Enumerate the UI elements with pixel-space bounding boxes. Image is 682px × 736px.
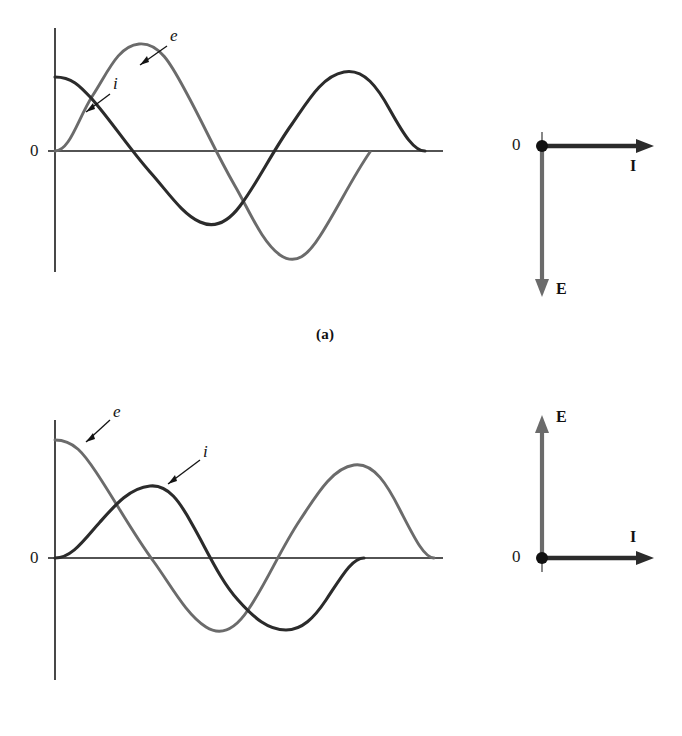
phasor-svg-a — [470, 0, 682, 330]
axis-zero-label-b: 0 — [30, 548, 39, 568]
phasor-label-i-b: I — [630, 528, 636, 546]
voltage-annotation-arrow-b — [86, 420, 110, 442]
phasor-label-e-a: E — [556, 280, 567, 298]
waveform-plot-a — [0, 0, 470, 330]
phasor-origin-dot-b — [536, 552, 548, 564]
current-annotation-arrow-b — [168, 460, 200, 484]
panel-b: 0 e i E 0 I — [0, 380, 682, 736]
waveform-plot-b — [0, 380, 470, 710]
waveform-svg-b — [0, 380, 470, 710]
phasor-svg-b — [470, 380, 682, 710]
phasor-origin-label-a: 0 — [512, 135, 521, 155]
phasor-label-e-b: E — [556, 408, 567, 426]
phasor-vector-e-a — [535, 146, 549, 297]
current-curve-a — [55, 71, 425, 224]
figure-root: 0 e i 0 I E — [0, 0, 682, 736]
panel-caption-a: (a) — [316, 326, 334, 343]
axis-zero-label-a: 0 — [30, 141, 39, 161]
current-curve-label-b: i — [203, 442, 208, 462]
voltage-curve-b — [55, 440, 434, 631]
phasor-diagram-b: E 0 I — [470, 380, 682, 710]
phasor-origin-dot-a — [536, 140, 548, 152]
panel-a: 0 e i 0 I E — [0, 0, 682, 380]
phasor-diagram-a: 0 I E — [470, 0, 682, 330]
waveform-svg-a — [0, 0, 470, 330]
voltage-curve-label-a: e — [170, 26, 178, 46]
current-curve-label-a: i — [113, 74, 118, 94]
phasor-label-i-a: I — [630, 157, 636, 175]
phasor-vector-i-b — [542, 551, 654, 565]
phasor-vector-e-b — [535, 415, 549, 558]
phasor-vector-i-a — [542, 139, 654, 153]
phasor-origin-label-b: 0 — [512, 547, 521, 567]
voltage-curve-label-b: e — [113, 402, 121, 422]
